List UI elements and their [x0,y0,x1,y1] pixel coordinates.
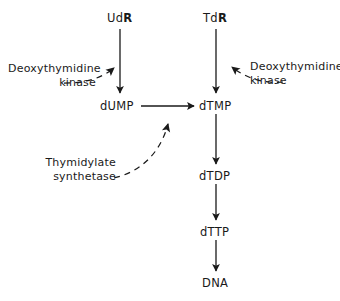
node-label-dttp: dTTP [200,226,229,239]
node-label-dtmp: dTMP [199,100,231,113]
enzyme-label-deoxythymidine-kinase-left: Deoxythymidine kinase [8,62,96,90]
node-label-dump: dUMP [100,100,134,113]
enzyme-label-line1: Deoxythymidine [250,60,338,74]
pathway-arrows-layer [0,0,340,301]
enzyme-label-line2: kinase [8,76,96,90]
node-label-dtdp: dTDP [199,170,230,183]
node-label-dna: DNA [202,277,228,290]
enzyme-label-thymidylate-synthetase: Thymidylate synthetase [38,156,116,184]
node-label-udr: UdR [107,12,132,25]
node-label-udr-text: Ud [107,11,123,25]
node-label-udr-bold: R [123,11,132,25]
enzyme-label-line2: kinase [250,74,338,88]
dashed-arrow-synthetase [114,124,168,178]
node-label-tdr-bold: R [218,11,227,25]
node-label-tdr-text: Td [203,11,218,25]
enzyme-label-line1: Thymidylate [38,156,116,170]
enzyme-label-deoxythymidine-kinase-right: Deoxythymidine kinase [250,60,338,88]
enzyme-label-line1: Deoxythymidine [8,62,96,76]
pathway-diagram: UdR TdR dUMP dTMP dTDP dTTP DNA Deoxythy… [0,0,340,301]
enzyme-label-line2: synthetase [38,170,116,184]
node-label-tdr: TdR [203,12,227,25]
